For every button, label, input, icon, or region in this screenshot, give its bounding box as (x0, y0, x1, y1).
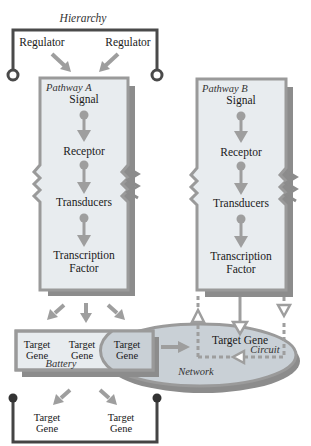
transducers-label: Transducers (56, 196, 112, 208)
regulator-label: Regulator (19, 36, 65, 49)
pathway-a-label: Pathway A (45, 82, 92, 93)
pathway-a-output-arrow-icon (80, 303, 92, 323)
target-gene-label: Gene (116, 350, 138, 361)
battery-output-arrow-icon (53, 390, 70, 405)
target-gene-label: Target (114, 339, 141, 350)
transcription-factor-label: Factor (226, 263, 256, 275)
regulator-label: Regulator (105, 36, 151, 49)
transducers-label: Transducers (213, 197, 269, 209)
battery-output-arrow-icon (100, 390, 117, 405)
transcription-factor-label: Transcription (53, 249, 115, 262)
pathway-a-output-arrow-icon (108, 305, 125, 320)
receptor-label: Receptor (220, 146, 262, 159)
signal-label: Signal (69, 93, 98, 106)
network-label: Network (177, 366, 214, 377)
receptor-label: Receptor (63, 145, 105, 158)
hierarchy-bracket-bottom (9, 394, 162, 443)
transcription-factor-label: Transcription (210, 250, 272, 263)
pathway-b-label: Pathway B (201, 83, 248, 94)
circuit-label: Circuit (250, 344, 280, 355)
regulator-arrow-icon (99, 54, 118, 72)
target-gene-label: Gene (110, 423, 132, 434)
battery-label: Battery (46, 358, 77, 369)
hierarchy-node-icon (9, 394, 18, 403)
pathway-a-output-arrow-icon (47, 305, 64, 320)
target-gene-label: Target (69, 339, 96, 350)
gene-regulation-diagram: Hierarchy Regulator Regulator Pathway A … (0, 0, 311, 446)
hierarchy-label: Hierarchy (59, 12, 108, 25)
target-gene-label: Gene (36, 423, 58, 434)
hierarchy-node-icon (152, 70, 162, 80)
target-gene-label: Target (34, 412, 61, 423)
target-gene-label: Target (24, 339, 51, 350)
target-gene-label: Target (108, 412, 135, 423)
regulator-arrow-icon (52, 54, 71, 72)
transcription-factor-label: Factor (69, 262, 99, 274)
hierarchy-node-icon (153, 394, 162, 403)
signal-label: Signal (226, 94, 255, 107)
hierarchy-node-icon (8, 70, 18, 80)
